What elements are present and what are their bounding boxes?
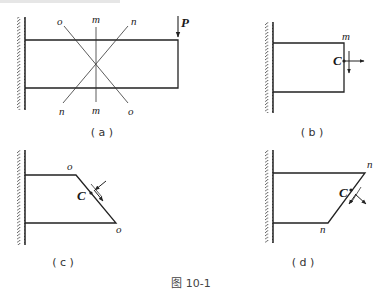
beam-outline [25,40,178,88]
figure-caption: 图 10-1 [171,277,210,290]
panel-c: o o C ( c ) [17,150,122,269]
normal-stress-arrow [95,181,106,190]
beam-segment-outline [25,175,116,223]
wall-hatch [265,22,273,113]
wall-hatch [265,150,273,243]
label-o-bottom: o [116,223,122,235]
label-n-top: n [131,15,137,27]
point-c [89,191,92,194]
normal-stress-arrow [355,194,366,204]
figure-10-1: P o m n n m o ( a ) m C ( b ) o o C ( c … [0,0,382,291]
shear-stress-arrow [349,194,356,204]
panel-a: P o m n n m o ( a ) [17,13,190,139]
panel-b: m C ( b ) [265,22,364,139]
label-o-top: o [57,15,63,27]
wall-hatch [17,150,25,245]
wall-hatch [17,17,25,110]
label-o-bottom: o [128,105,134,117]
label-n-bottom: n [59,105,65,117]
label-point-c: C [77,188,86,203]
caption-c: ( c ) [52,256,74,269]
label-point-c: C [339,185,348,200]
label-m-top: m [92,13,100,25]
label-m-bottom: m [92,104,100,116]
point-c [349,188,352,191]
label-o-top: o [67,160,73,172]
caption-b: ( b ) [301,126,324,139]
caption-d: ( d ) [292,256,315,269]
shear-stress-arrow [94,190,103,201]
label-point-c: C [333,53,342,68]
beam-segment-outline [273,173,365,223]
caption-a: ( a ) [91,126,113,139]
label-n-top: n [367,158,373,170]
load-label-p: P [181,15,190,30]
label-m: m [342,30,350,42]
label-n-bottom: n [320,223,326,235]
panel-d: n n C ( d ) [265,150,373,269]
cropped-text-strip [0,0,120,3]
